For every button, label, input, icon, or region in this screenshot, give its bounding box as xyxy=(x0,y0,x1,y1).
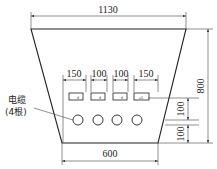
cable-circle xyxy=(132,115,142,125)
dim-height-label: 800 xyxy=(195,79,206,94)
dim-vertical-spacing: 100 100 xyxy=(148,98,199,143)
cable-circle xyxy=(73,115,83,125)
dim-height: 800 xyxy=(158,29,213,143)
spacer-boxes: d d d ≥5 xyxy=(69,93,149,100)
dim-vertical-1-label: 100 xyxy=(175,102,186,117)
spacer-box xyxy=(113,93,127,100)
spacer-box xyxy=(69,93,83,100)
cable-circle xyxy=(93,115,103,125)
dim-spacing-4-label: 150 xyxy=(139,68,154,79)
dim-top-width: 1130 xyxy=(31,4,186,29)
dim-horizontal-spacings: 150 100 100 150 xyxy=(63,68,158,143)
trench-outline xyxy=(31,29,186,143)
dim-spacing-1-label: 150 xyxy=(67,68,82,79)
trench-diagram: 1130 600 800 100 100 150 100 1 xyxy=(0,0,217,169)
dim-top-width-label: 1130 xyxy=(98,4,118,15)
dim-bottom-width: 600 xyxy=(62,143,158,165)
dim-spacing-2-label: 100 xyxy=(92,68,107,79)
spacer-box xyxy=(91,93,105,100)
spacer-box-label: d xyxy=(99,95,101,100)
spacer-box-label: d xyxy=(77,95,79,100)
cable-circle xyxy=(112,115,122,125)
cables xyxy=(73,115,142,125)
dim-spacing-3-label: 100 xyxy=(114,68,129,79)
cable-label-line2: (4根) xyxy=(5,106,27,117)
spacer-box-label: ≥5 xyxy=(139,95,143,100)
spacer-box-label: d xyxy=(121,95,123,100)
cable-label-line1: 电缆 xyxy=(8,94,26,105)
dim-bottom-width-label: 600 xyxy=(103,148,118,159)
dim-vertical-2-label: 100 xyxy=(175,127,186,142)
